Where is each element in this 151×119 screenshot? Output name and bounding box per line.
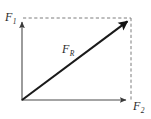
vector-diagram-canvas [0,0,151,119]
vector-label-f2-base: F [133,99,140,113]
vector-label-fr: FR [62,43,74,55]
force-vector-diagram: F1 F2 FR [0,0,151,119]
vector-label-f2-subscript: 2 [141,106,145,115]
vector-label-f2: F2 [133,100,144,112]
vector-fr-resultant [22,21,127,100]
vector-label-fr-base: F [62,42,69,56]
vector-label-f1-subscript: 1 [13,17,17,26]
vector-label-f1: F1 [5,11,16,23]
vector-label-fr-subscript: R [70,49,75,58]
vector-label-f1-base: F [5,10,12,24]
